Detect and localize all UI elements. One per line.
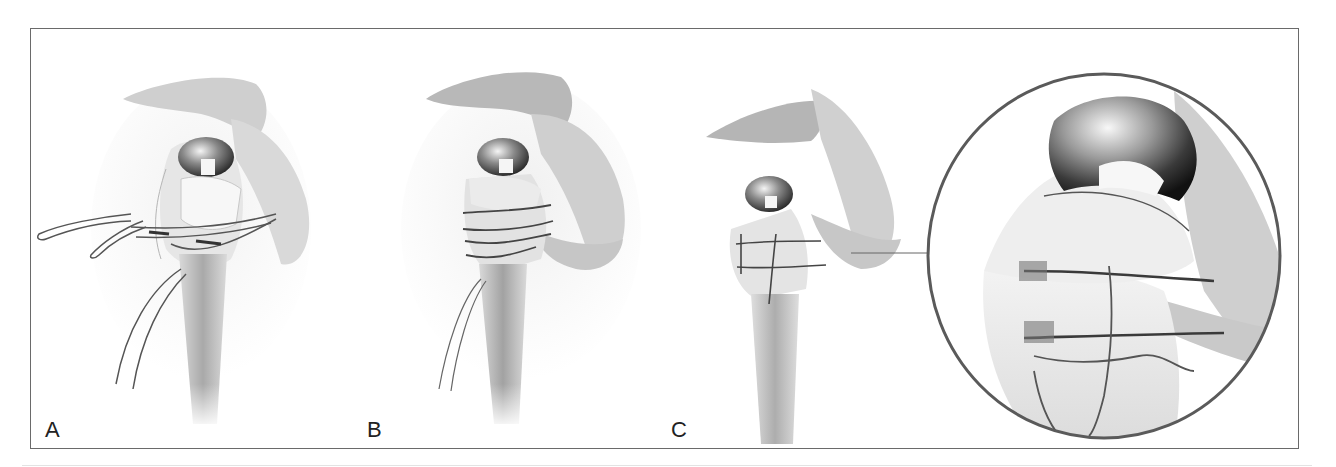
panel-a: A (31, 29, 361, 448)
magnified-inset (924, 71, 1284, 441)
figure-frame: A (30, 28, 1299, 449)
panel-label-b: B (367, 419, 382, 441)
panel-c: C (661, 29, 961, 448)
bottom-rule (22, 465, 1312, 466)
panel-label-c: C (671, 419, 687, 441)
shoulder-illustration-c (661, 29, 961, 450)
panel-b: B (361, 29, 661, 448)
shoulder-illustration-b (361, 29, 661, 450)
panel-label-a: A (45, 419, 60, 441)
magnified-detail-illustration (924, 71, 1284, 441)
shoulder-illustration-a (31, 29, 361, 450)
